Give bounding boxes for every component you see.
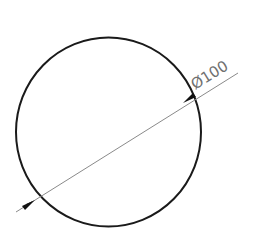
cad-drawing: Ø100 <box>0 0 255 242</box>
diameter-dimension-line <box>16 73 238 212</box>
arrowhead-lower-left-icon-main <box>22 200 35 210</box>
circle <box>16 38 201 227</box>
diameter-label: Ø100 <box>188 57 232 94</box>
